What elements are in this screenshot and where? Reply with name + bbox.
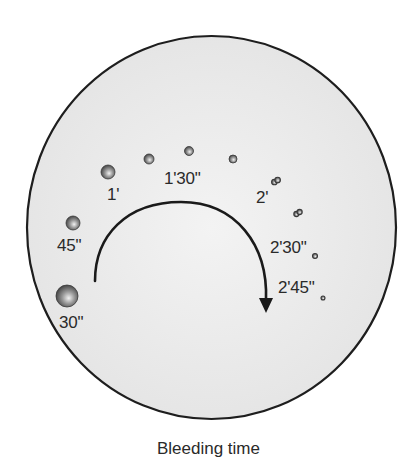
blood-drop	[144, 154, 154, 164]
time-label: 1'	[107, 186, 119, 203]
blood-drop	[101, 165, 115, 179]
filter-paper-plate	[27, 36, 396, 419]
time-label: 2'45"	[278, 279, 315, 296]
diagram-caption: Bleeding time	[0, 440, 417, 457]
blood-drop	[66, 216, 80, 230]
time-label: 30"	[59, 314, 83, 331]
time-label: 2'30"	[270, 239, 307, 256]
blood-drop	[185, 147, 194, 156]
blood-drop	[229, 155, 237, 163]
blood-drop	[313, 254, 318, 259]
blood-drop	[321, 296, 325, 300]
time-label: 2'	[256, 189, 268, 206]
time-label: 1'30"	[164, 170, 201, 187]
blood-drop	[297, 209, 302, 214]
blood-drop	[56, 285, 78, 307]
blood-drop	[275, 177, 281, 183]
time-label: 45"	[57, 237, 81, 254]
